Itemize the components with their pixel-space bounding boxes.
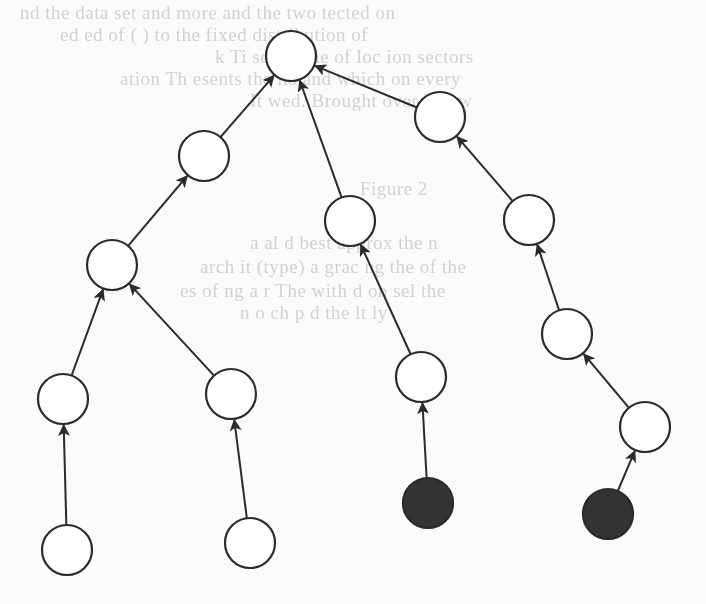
node-b — [87, 240, 137, 290]
node-h — [206, 369, 256, 419]
node-root — [266, 31, 316, 81]
edge-m-to-f — [584, 354, 629, 408]
node-c — [325, 196, 375, 246]
node-m — [620, 402, 670, 452]
edges — [64, 66, 635, 525]
edge-h-to-b — [130, 284, 214, 376]
edge-b-to-a — [128, 176, 187, 246]
edge-c-to-root — [300, 80, 342, 197]
edge-a-to-root — [220, 76, 274, 138]
edge-n-to-m — [618, 451, 635, 491]
node-k — [396, 352, 446, 402]
edge-l-to-k — [422, 403, 426, 478]
edge-d-to-root — [315, 66, 417, 108]
node-g — [38, 374, 88, 424]
edge-i-to-g — [64, 425, 67, 525]
edge-e-to-d — [457, 137, 513, 201]
filled-node-l — [403, 478, 453, 528]
node-i — [42, 525, 92, 575]
node-a — [179, 131, 229, 181]
node-f — [542, 309, 592, 359]
node-d — [415, 92, 465, 142]
node-j — [225, 518, 275, 568]
node-e — [504, 195, 554, 245]
tree-diagram — [0, 0, 706, 604]
nodes — [38, 31, 670, 575]
edge-f-to-e — [537, 245, 559, 311]
edge-k-to-c — [361, 245, 411, 355]
edge-g-to-b — [72, 289, 103, 375]
filled-node-n — [583, 489, 633, 539]
edge-j-to-h — [234, 420, 247, 518]
